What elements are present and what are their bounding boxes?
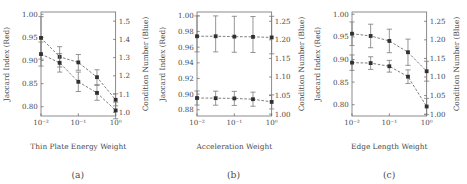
svg-text:0.85: 0.85 (22, 79, 38, 88)
svg-text:0.94: 0.94 (178, 58, 194, 67)
svg-text:0.80: 0.80 (22, 102, 38, 111)
svg-text:1.20: 1.20 (430, 35, 446, 44)
svg-text:1.10: 1.10 (430, 72, 446, 81)
svg-text:10⁻²: 10⁻² (345, 118, 361, 127)
svg-text:10⁰: 10⁰ (265, 118, 277, 127)
svg-text:10⁰: 10⁰ (110, 118, 122, 127)
data-point (406, 39, 411, 65)
svg-text:Condition Number (Blue): Condition Number (Blue) (141, 17, 150, 112)
svg-text:Condition Number (Blue): Condition Number (Blue) (297, 17, 306, 112)
chart-svg-c: 0.800.850.900.951.001.001.051.101.151.20… (311, 0, 467, 152)
data-point (250, 92, 255, 106)
data-point (406, 70, 411, 84)
svg-text:Jaccard Index (Red): Jaccard Index (Red) (314, 27, 323, 102)
svg-text:0.90: 0.90 (333, 55, 349, 64)
data-point (38, 42, 43, 66)
data-point (76, 72, 81, 91)
svg-text:1.1: 1.1 (119, 90, 130, 99)
svg-text:0.95: 0.95 (22, 33, 38, 42)
panel-caption-a: (a) (0, 169, 156, 180)
svg-text:1.05: 1.05 (275, 91, 291, 100)
data-point (368, 57, 373, 70)
data-point (269, 16, 274, 54)
data-point (76, 55, 81, 71)
svg-text:Jaccard Index (Red): Jaccard Index (Red) (158, 27, 167, 102)
svg-text:1.2: 1.2 (119, 71, 130, 80)
svg-text:0.96: 0.96 (178, 43, 194, 52)
svg-text:Edge Length Weight: Edge Length Weight (351, 142, 427, 151)
panel-b: 0.880.900.920.940.960.981.001.001.051.10… (156, 0, 312, 184)
svg-text:0.92: 0.92 (178, 74, 194, 83)
svg-text:0.80: 0.80 (333, 100, 349, 109)
svg-text:10⁻¹: 10⁻¹ (382, 118, 398, 127)
svg-text:1.15: 1.15 (430, 54, 446, 63)
svg-text:1.15: 1.15 (275, 54, 291, 63)
svg-text:0.85: 0.85 (333, 78, 349, 87)
svg-text:1.00: 1.00 (333, 10, 349, 19)
svg-text:10⁻²: 10⁻² (33, 118, 49, 127)
svg-text:Jaccard Index (Red): Jaccard Index (Red) (2, 27, 11, 102)
svg-text:1.0: 1.0 (119, 108, 131, 117)
svg-text:10⁰: 10⁰ (421, 118, 433, 127)
data-point (424, 61, 429, 81)
data-point (387, 29, 392, 53)
svg-text:10⁻¹: 10⁻¹ (71, 118, 87, 127)
data-point (194, 16, 199, 52)
svg-text:0.98: 0.98 (178, 27, 194, 36)
svg-text:Acceleration Weight: Acceleration Weight (195, 142, 272, 151)
plot-area-a: 0.800.850.900.951.001.01.11.21.31.41.510… (0, 0, 156, 152)
data-point (94, 70, 99, 85)
svg-text:1.25: 1.25 (275, 17, 291, 26)
data-point (250, 17, 255, 53)
chart-svg-b: 0.880.900.920.940.960.981.001.001.051.10… (156, 0, 312, 152)
svg-text:10⁻¹: 10⁻¹ (226, 118, 242, 127)
data-point (350, 22, 355, 46)
svg-text:1.00: 1.00 (275, 110, 291, 119)
chart-svg-a: 0.800.850.900.951.001.01.11.21.31.41.510… (0, 0, 156, 152)
plot-area-b: 0.880.900.920.940.960.981.001.001.051.10… (156, 0, 312, 152)
data-point (424, 98, 429, 114)
svg-text:1.00: 1.00 (178, 11, 194, 20)
data-point (194, 91, 199, 105)
svg-text:1.00: 1.00 (430, 110, 446, 119)
svg-text:1.10: 1.10 (275, 72, 291, 81)
data-point (387, 60, 392, 72)
svg-text:0.95: 0.95 (333, 32, 349, 41)
data-point (213, 16, 218, 52)
data-point (231, 91, 236, 105)
svg-text:Thin Plate Energy Weight: Thin Plate Energy Weight (30, 142, 126, 151)
data-point (213, 91, 218, 105)
data-point (350, 55, 355, 70)
panel-c: 0.800.850.900.951.001.001.051.101.151.20… (311, 0, 467, 184)
svg-text:1.25: 1.25 (430, 17, 446, 26)
svg-text:1.3: 1.3 (119, 53, 130, 62)
svg-text:1.5: 1.5 (119, 17, 130, 26)
data-point (368, 24, 373, 48)
data-point (269, 95, 274, 109)
panel-caption-c: (c) (311, 169, 467, 180)
svg-text:1.4: 1.4 (119, 35, 131, 44)
data-point (94, 85, 99, 100)
svg-text:0.88: 0.88 (178, 105, 194, 114)
svg-text:0.90: 0.90 (22, 56, 38, 65)
data-point (231, 16, 236, 52)
panel-a: 0.800.850.900.951.001.01.11.21.31.41.510… (0, 0, 156, 184)
svg-text:1.20: 1.20 (275, 35, 291, 44)
svg-text:1.00: 1.00 (22, 10, 38, 19)
figure-panel-row: 0.800.850.900.951.001.01.11.21.31.41.510… (0, 0, 467, 184)
svg-text:1.05: 1.05 (430, 91, 446, 100)
svg-text:10⁻²: 10⁻² (189, 118, 205, 127)
panel-caption-b: (b) (156, 169, 312, 180)
svg-text:0.90: 0.90 (178, 90, 194, 99)
plot-area-c: 0.800.850.900.951.001.001.051.101.151.20… (311, 0, 467, 152)
svg-text:Condition Number (Blue): Condition Number (Blue) (452, 17, 461, 112)
